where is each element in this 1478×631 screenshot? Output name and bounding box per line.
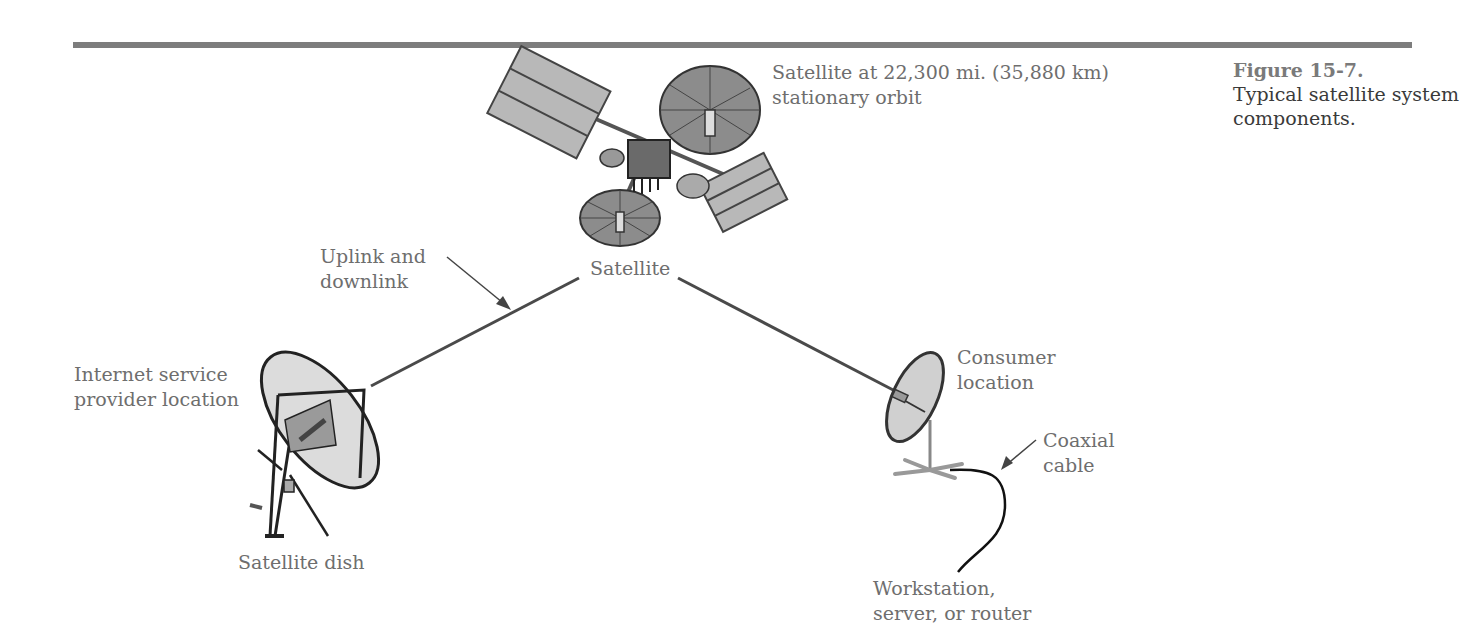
figure-number: Figure 15-7. — [1233, 58, 1459, 82]
workstation-line1: Workstation, — [873, 576, 1031, 601]
consumer-line1: Consumer — [957, 345, 1056, 370]
workstation-label: Workstation, server, or router — [873, 576, 1031, 626]
satellite-orbit-line2: stationary orbit — [772, 85, 1109, 110]
uplink-downlink-label: Uplink and downlink — [320, 244, 426, 294]
figure-caption: Figure 15-7. Typical satellite system co… — [1233, 58, 1459, 130]
satellite-icon — [487, 46, 787, 246]
satellite-orbit-label: Satellite at 22,300 mi. (35,880 km) stat… — [772, 60, 1109, 110]
coaxial-cable-label: Coaxial cable — [1043, 428, 1115, 478]
figure-description: Typical satellite system components. — [1233, 82, 1459, 130]
isp-line1: Internet service — [74, 362, 239, 387]
satellite-dish-label: Satellite dish — [238, 550, 365, 575]
uplink-line1: Uplink and — [320, 244, 426, 269]
consumer-location-label: Consumer location — [957, 345, 1056, 395]
uplink-line-left — [371, 278, 579, 386]
isp-dish-icon — [239, 332, 401, 536]
downlink-line-right — [678, 278, 897, 392]
uplink-line2: downlink — [320, 269, 426, 294]
isp-location-label: Internet service provider location — [74, 362, 239, 412]
workstation-line2: server, or router — [873, 601, 1031, 626]
coax-line1: Coaxial — [1043, 428, 1115, 453]
isp-line2: provider location — [74, 387, 239, 412]
satellite-label: Satellite — [590, 256, 670, 281]
consumer-line2: location — [957, 370, 1056, 395]
satellite-orbit-line1: Satellite at 22,300 mi. (35,880 km) — [772, 60, 1109, 85]
coax-line2: cable — [1043, 453, 1115, 478]
